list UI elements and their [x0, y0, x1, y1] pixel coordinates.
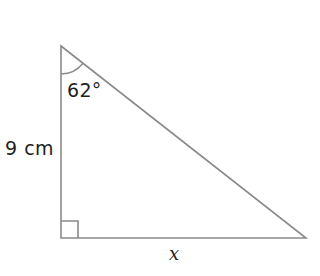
- angle-label: 62°: [67, 81, 102, 100]
- right-angle-marker-icon: [61, 221, 78, 238]
- base-label: x: [169, 245, 179, 263]
- angle-arc-icon: [61, 63, 83, 74]
- vertical-leg-label: 9 cm: [5, 139, 54, 158]
- triangle-outline: [61, 46, 306, 238]
- geometry-figure: 9 cm 62° x: [0, 0, 320, 276]
